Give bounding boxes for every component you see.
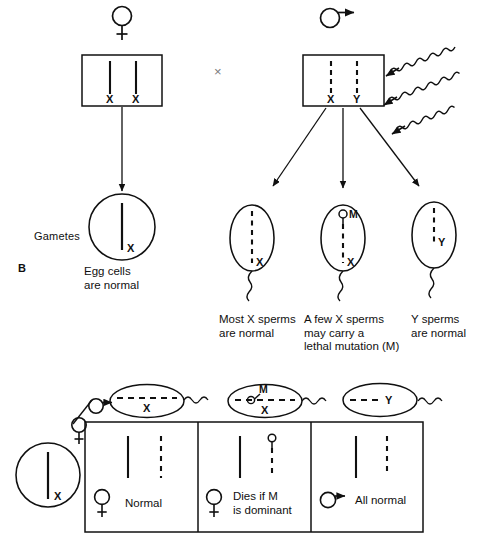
section-letter-b: B xyxy=(18,262,26,275)
sperm-cell-x-normal xyxy=(230,205,274,301)
punnett-cell-3-outcome: All normal xyxy=(355,494,406,508)
gametes-label: Gametes xyxy=(34,230,80,243)
male-parent-symbol xyxy=(321,9,355,28)
lethal-mutation-marker xyxy=(339,210,347,224)
table-col-header-sperm-x xyxy=(110,385,208,418)
female-parent-cell-box xyxy=(82,55,162,106)
sperm-3-chromosome-letter: Y xyxy=(438,236,446,249)
egg-chromosome-letter: X xyxy=(127,242,135,255)
punnett-cell-2-chromosomes xyxy=(240,434,276,478)
punnett-cell-3-chromosomes xyxy=(356,436,387,478)
egg-caption: Egg cells are normal xyxy=(84,265,139,292)
male-parent-chromosome-2-letter: Y xyxy=(353,93,361,106)
sperm-cell-x-mutant xyxy=(321,205,365,301)
male-parent-chromosome-1-letter: X xyxy=(327,93,335,106)
table-col-header-male-symbol xyxy=(73,399,112,424)
female-parent-symbol xyxy=(113,7,132,41)
sperm-1-chromosome-letter: X xyxy=(256,256,264,269)
diagram-vector-layer xyxy=(0,0,491,544)
lethal-mutation-marker xyxy=(247,394,260,404)
figure-canvas: × B Gametes X X X Y X Egg cells are norm… xyxy=(0,0,491,544)
sperm-cell-y xyxy=(412,202,456,298)
lethal-mutation-marker xyxy=(268,434,276,448)
radiation-waves xyxy=(384,47,460,134)
female-parent-chromosome-2-letter: X xyxy=(132,93,140,106)
table-col-header-sperm-2-letter: X xyxy=(261,404,269,417)
cross-symbol: × xyxy=(214,64,222,79)
punnett-cell-1-outcome: Normal xyxy=(125,497,162,511)
punnett-cell-1-female-symbol xyxy=(95,490,110,517)
punnett-cell-1-chromosomes xyxy=(128,436,161,478)
sperm-2-caption: A few X sperms may carry a lethal mutati… xyxy=(304,313,399,354)
punnett-cell-2-female-symbol xyxy=(207,490,222,517)
table-col-header-sperm-x-mutant xyxy=(228,385,326,418)
sperm-3-caption: Y sperms are normal xyxy=(411,313,466,340)
male-meiosis-arrows xyxy=(273,108,419,188)
table-col-header-sperm-3-letter: Y xyxy=(385,394,393,407)
sperm-1-caption: Most X sperms are normal xyxy=(219,313,296,340)
table-col-header-sperm-2-mutation-letter: M xyxy=(259,383,268,395)
table-col-header-sperm-1-letter: X xyxy=(143,402,151,415)
table-row-header-egg-letter: X xyxy=(54,490,62,503)
egg-cell xyxy=(89,194,155,260)
punnett-cell-2-outcome: Dies if M is dominant xyxy=(233,490,292,517)
sperm-2-mutation-letter: M xyxy=(349,208,358,220)
female-parent-chromosome-1-letter: X xyxy=(106,93,114,106)
male-parent-cell-box xyxy=(303,55,384,106)
punnett-cell-3-male-symbol xyxy=(320,492,345,507)
sperm-2-chromosome-letter: X xyxy=(347,256,355,269)
table-row-header-egg xyxy=(16,443,80,507)
